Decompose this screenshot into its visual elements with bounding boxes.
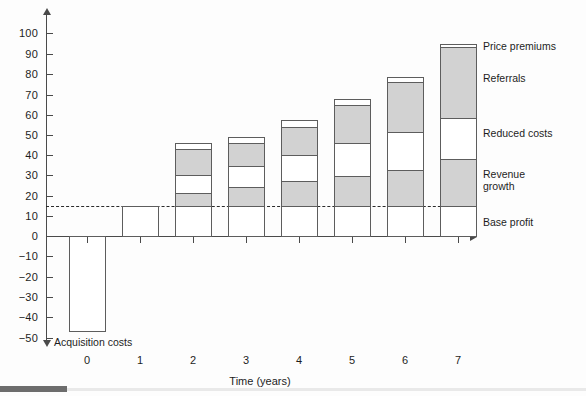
x-tick-label-0: 0 [67, 355, 107, 366]
bar-year-4-base-profit [281, 206, 318, 237]
x-tick-6 [405, 237, 406, 243]
bar-year-6-revenue-growth [387, 170, 424, 207]
page-footer-rule [0, 386, 67, 392]
y-tick-label-minus-30: −30 [4, 292, 38, 303]
y-tick-30 [47, 175, 53, 176]
y-tick-label-minus-10: −10 [4, 251, 38, 262]
bar-year-0-acquisition-costs [69, 236, 106, 332]
y-tick-50 [47, 135, 53, 136]
bar-year-2-price-premiums [175, 143, 212, 150]
bar-year-5-revenue-growth [334, 176, 371, 207]
y-tick-20 [47, 196, 53, 197]
callout-price-premiums: Price premiums [483, 40, 556, 52]
x-tick-3 [246, 237, 247, 243]
callout-revenue-growth-line1: Revenue [483, 168, 525, 180]
y-tick-70 [47, 95, 53, 96]
y-tick-label-60: 60 [4, 110, 38, 121]
y-tick-label-20: 20 [4, 191, 38, 202]
y-tick-label-minus-20: −20 [4, 272, 38, 283]
y-tick-100 [47, 33, 53, 34]
x-tick-1 [140, 237, 141, 243]
bar-year-5-price-premiums [334, 99, 371, 106]
x-tick-5 [352, 237, 353, 243]
y-tick-minus-10 [47, 256, 53, 257]
x-tick-label-7: 7 [438, 355, 478, 366]
callout-base-profit: Base profit [483, 216, 533, 228]
bar-year-6-reduced-costs [387, 132, 424, 171]
bar-year-4-referrals [281, 127, 318, 156]
y-tick-label-40: 40 [4, 150, 38, 161]
x-tick-label-2: 2 [173, 355, 213, 366]
y-tick-minus-40 [47, 317, 53, 318]
bar-year-2-reduced-costs [175, 175, 212, 194]
y-tick-label-minus-50: −50 [4, 333, 38, 344]
y-tick-label-80: 80 [4, 69, 38, 80]
bar-year-1-base-profit [122, 206, 159, 237]
bar-year-3-price-premiums [228, 137, 265, 144]
y-tick-label-90: 90 [4, 49, 38, 60]
y-tick-minus-30 [47, 297, 53, 298]
x-tick-label-1: 1 [120, 355, 160, 366]
y-tick-label-minus-40: −40 [4, 312, 38, 323]
y-tick-label-70: 70 [4, 90, 38, 101]
bar-year-6-base-profit [387, 206, 424, 237]
x-tick-2 [193, 237, 194, 243]
y-tick-0 [47, 236, 53, 237]
y-tick-minus-50 [47, 338, 53, 339]
bar-year-5-reduced-costs [334, 143, 371, 177]
y-axis-top-arrow-icon [43, 8, 51, 15]
acquisition-costs-label: Acquisition costs [54, 336, 132, 348]
x-tick-label-3: 3 [226, 355, 266, 366]
y-tick-90 [47, 54, 53, 55]
bar-year-3-referrals [228, 143, 265, 167]
bar-year-5-referrals [334, 105, 371, 144]
y-tick-10 [47, 216, 53, 217]
y-tick-label-30: 30 [4, 170, 38, 181]
x-tick-label-6: 6 [385, 355, 425, 366]
bar-year-7-base-profit [440, 206, 477, 237]
x-tick-label-4: 4 [279, 355, 319, 366]
bar-year-4-reduced-costs [281, 155, 318, 182]
x-axis-title: Time (years) [180, 375, 340, 387]
y-tick-40 [47, 155, 53, 156]
bar-year-2-base-profit [175, 206, 212, 237]
bar-year-4-price-premiums [281, 120, 318, 128]
bar-year-2-referrals [175, 149, 212, 176]
bar-year-7-price-premiums [440, 44, 477, 48]
bar-year-7-referrals [440, 47, 477, 119]
bar-year-7-reduced-costs [440, 118, 477, 160]
page-bottom-edge [67, 388, 586, 391]
bar-year-4-revenue-growth [281, 181, 318, 207]
x-tick-0 [87, 237, 88, 243]
x-tick-label-5: 5 [332, 355, 372, 366]
y-tick-label-0: 0 [4, 231, 38, 242]
bar-year-2-revenue-growth [175, 193, 212, 207]
chart-figure: 100 90 80 70 60 50 40 30 20 10 0 −10 −20… [0, 0, 586, 396]
y-axis-line [46, 14, 47, 344]
y-tick-80 [47, 74, 53, 75]
callout-referrals: Referrals [483, 72, 526, 84]
x-tick-7 [458, 237, 459, 243]
y-tick-60 [47, 115, 53, 116]
y-tick-minus-20 [47, 277, 53, 278]
bar-year-3-revenue-growth [228, 187, 265, 207]
bar-year-3-base-profit [228, 206, 265, 237]
y-axis-bottom-arrow-icon [43, 340, 51, 347]
y-tick-label-10: 10 [4, 211, 38, 222]
bar-year-6-referrals [387, 82, 424, 133]
y-tick-label-50: 50 [4, 130, 38, 141]
bar-year-6-price-premiums [387, 77, 424, 83]
bar-year-3-reduced-costs [228, 166, 265, 188]
bar-year-7-revenue-growth [440, 159, 477, 207]
callout-revenue-growth-line2: growth [483, 180, 515, 192]
callout-reduced-costs: Reduced costs [483, 127, 552, 139]
y-tick-label-100: 100 [4, 28, 38, 39]
bar-year-5-base-profit [334, 206, 371, 237]
x-tick-4 [299, 237, 300, 243]
